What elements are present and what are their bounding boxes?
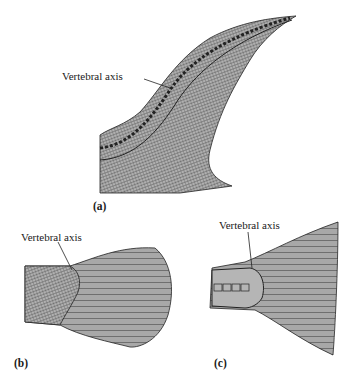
fin-b — [25, 242, 172, 347]
callout-b: Vertebral axis — [21, 231, 82, 243]
callout-a: Vertebral axis — [62, 70, 123, 82]
fin-diagram — [0, 0, 349, 389]
panel-label-c: (c) — [214, 357, 227, 369]
panel-label-a: (a) — [93, 200, 106, 212]
panel-label-b: (b) — [14, 357, 28, 369]
fin-a — [100, 16, 296, 193]
callout-c: Vertebral axis — [219, 219, 280, 231]
fin-c — [210, 222, 338, 355]
